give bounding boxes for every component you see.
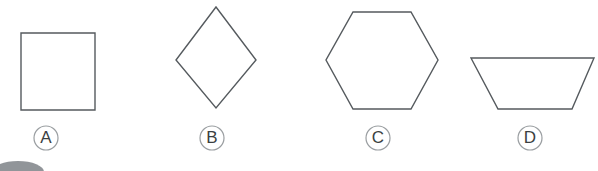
square-shape[interactable] <box>21 33 95 110</box>
option-d-group[interactable]: D <box>471 58 594 150</box>
label-letter-d: D <box>524 128 536 147</box>
figure-canvas: A B C D <box>0 0 598 171</box>
hexagon-shape[interactable] <box>326 12 438 109</box>
label-badge-d[interactable]: D <box>518 126 542 150</box>
option-c-group[interactable]: C <box>326 12 438 150</box>
label-badge-c[interactable]: C <box>366 126 390 150</box>
label-badge-b[interactable]: B <box>200 126 224 150</box>
shapes-svg: A B C D <box>0 0 598 171</box>
option-a-group[interactable]: A <box>21 33 95 150</box>
option-b-group[interactable]: B <box>176 7 256 150</box>
label-badge-a[interactable]: A <box>34 126 58 150</box>
rhombus-shape[interactable] <box>176 7 256 108</box>
trapezoid-shape[interactable] <box>471 58 594 109</box>
corner-blob-icon <box>0 161 44 171</box>
label-letter-a: A <box>40 128 52 147</box>
label-letter-c: C <box>372 128 384 147</box>
label-letter-b: B <box>206 128 217 147</box>
